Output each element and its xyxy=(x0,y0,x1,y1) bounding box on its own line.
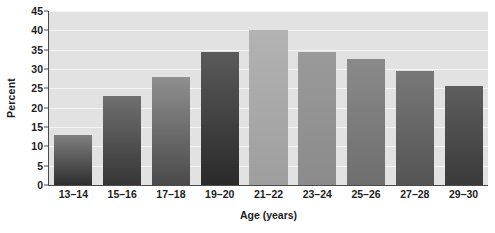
y-tick-label: 20 xyxy=(31,102,43,114)
x-tick-label: 23–24 xyxy=(293,188,342,200)
bar xyxy=(249,30,287,185)
bar xyxy=(445,86,483,185)
x-tick-label: 17–18 xyxy=(147,188,196,200)
x-tick-label: 25–26 xyxy=(342,188,391,200)
x-axis-tick-labels: 13–1415–1617–1819–2021–2223–2425–2627–28… xyxy=(49,188,488,208)
x-axis-line xyxy=(48,185,488,186)
plot-area xyxy=(49,11,488,185)
y-tick-label: 5 xyxy=(37,160,43,172)
y-tick-label: 45 xyxy=(31,5,43,17)
x-tick-label: 19–20 xyxy=(195,188,244,200)
y-tick-label: 30 xyxy=(31,63,43,75)
y-tick-label: 25 xyxy=(31,82,43,94)
x-tick-label: 15–16 xyxy=(98,188,147,200)
y-tick-label: 10 xyxy=(31,140,43,152)
x-tick-label: 29–30 xyxy=(439,188,488,200)
x-tick-label: 27–28 xyxy=(390,188,439,200)
x-tick-label: 21–22 xyxy=(244,188,293,200)
bar xyxy=(103,96,141,185)
bar xyxy=(201,52,239,185)
y-axis-title-label: Percent xyxy=(5,78,17,118)
bar-chart-figure: Percent 051015202530354045 13–1415–1617–… xyxy=(0,0,495,233)
x-axis-title: Age (years) xyxy=(49,209,488,221)
bar xyxy=(152,77,190,185)
x-tick-label: 13–14 xyxy=(49,188,98,200)
bar xyxy=(396,71,434,185)
y-tick-label: 35 xyxy=(31,44,43,56)
bar xyxy=(54,135,92,185)
y-axis-tick-labels: 051015202530354045 xyxy=(22,0,48,196)
y-axis-title: Percent xyxy=(0,0,22,196)
y-tick-label: 15 xyxy=(31,121,43,133)
bar-series xyxy=(49,11,488,185)
y-tick-label: 0 xyxy=(37,179,43,191)
bar xyxy=(347,59,385,185)
bar xyxy=(298,52,336,185)
y-tick-label: 40 xyxy=(31,24,43,36)
